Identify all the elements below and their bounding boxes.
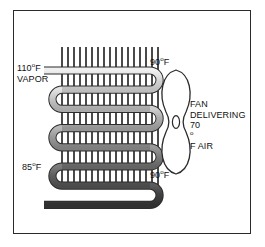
label-fan-line2: DELIVERING [190, 110, 246, 121]
condenser-coil [44, 71, 160, 205]
label-fan-line3: 70oF AIR [190, 120, 246, 152]
label-85-value: 85 [22, 162, 32, 172]
label-fan-line1: FAN [190, 99, 246, 110]
label-vapor-inlet: 110oF VAPOR [17, 63, 48, 84]
label-fan-value: 70 [190, 120, 246, 131]
fan-hub [172, 116, 179, 129]
label-air-out-top: 90oF [150, 57, 169, 68]
label-90-bottom-value: 90 [150, 170, 160, 180]
cooling-fan [162, 70, 190, 174]
label-vapor-line2: VAPOR [17, 74, 48, 85]
figure-root: 110oF VAPOR 85oF 90oF 90oF FAN DELIVERIN… [0, 0, 265, 247]
label-85-unit: F [36, 162, 42, 172]
label-90-top-unit: F [164, 57, 170, 67]
label-90-bottom-unit: F [164, 170, 170, 180]
label-90-top-value: 90 [150, 57, 160, 67]
label-air-out-bottom: 90oF [150, 170, 169, 181]
label-vapor-value: 110 [17, 63, 32, 73]
label-fan: FAN DELIVERING 70oF AIR [190, 99, 246, 152]
degree-symbol: o [190, 129, 194, 136]
label-liquid-outlet: 85oF [22, 162, 41, 173]
label-fan-unit: F AIR [190, 141, 246, 152]
label-vapor-unit: F [35, 63, 41, 73]
